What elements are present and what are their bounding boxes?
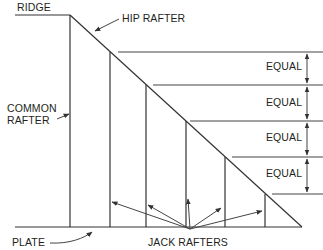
equal-label-2: EQUAL bbox=[266, 96, 302, 108]
common-rafter-label-line2: RAFTER bbox=[7, 114, 50, 126]
plate-label: PLATE bbox=[12, 236, 45, 248]
jack-rafters-leader-arrows bbox=[112, 199, 262, 229]
equal-label-1: EQUAL bbox=[266, 60, 302, 72]
common-rafter-label-line1: COMMON bbox=[7, 102, 57, 114]
common-rafter-leader-arrow bbox=[57, 114, 69, 119]
hip-roof-diagram: RIDGE HIP RAFTER COMMON RAFTER PLATE JAC… bbox=[0, 0, 323, 250]
jack-rafters bbox=[110, 52, 265, 227]
hip-rafter-leader-arrow bbox=[95, 19, 119, 31]
plate-leader-arrow bbox=[50, 232, 92, 243]
equal-label-4: EQUAL bbox=[266, 167, 302, 179]
hip-rafter-label: HIP RAFTER bbox=[122, 12, 186, 24]
ridge-label: RIDGE bbox=[17, 1, 51, 13]
equal-label-3: EQUAL bbox=[266, 131, 302, 143]
jack-rafters-label: JACK RAFTERS bbox=[148, 236, 228, 248]
